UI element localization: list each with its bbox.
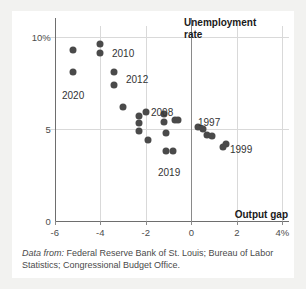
data-point xyxy=(142,109,149,116)
point-annotation: 2008 xyxy=(151,107,173,118)
data-point xyxy=(110,81,117,88)
point-annotation: 1999 xyxy=(230,144,252,155)
y-tick-label: 10% xyxy=(12,31,51,42)
data-point xyxy=(208,133,215,140)
x-gridline xyxy=(282,26,283,222)
x-axis-line xyxy=(55,221,289,222)
x-axis-title: Output gap xyxy=(235,209,288,221)
data-point xyxy=(136,120,143,127)
data-point xyxy=(161,118,168,125)
y-axis-line xyxy=(55,18,56,222)
data-point xyxy=(70,68,77,75)
data-point xyxy=(174,116,181,123)
point-annotation: 2012 xyxy=(126,74,148,85)
data-point xyxy=(97,50,104,57)
data-point xyxy=(220,144,227,151)
x-tick xyxy=(282,221,283,225)
x-gridline xyxy=(146,26,147,222)
x-gridline xyxy=(237,26,238,222)
data-point xyxy=(97,41,104,48)
y-axis-title-line1: Unemployment xyxy=(184,17,256,29)
chart-caption: Data from: Federal Reserve Bank of St. L… xyxy=(22,248,288,271)
x-tick xyxy=(100,221,101,225)
data-point xyxy=(120,103,127,110)
figure-container: -6-4-2024%0510%2010201220202008201919971… xyxy=(0,0,306,289)
data-point xyxy=(110,68,117,75)
x-tick-label: -4 xyxy=(96,227,104,238)
x-tick-label: -2 xyxy=(142,227,150,238)
x-tick xyxy=(55,221,56,225)
data-point xyxy=(136,127,143,134)
point-annotation: 2019 xyxy=(158,167,180,178)
point-annotation: 2020 xyxy=(62,90,84,101)
x-tick xyxy=(191,221,192,225)
point-annotation: 1997 xyxy=(198,117,220,128)
data-point xyxy=(70,46,77,53)
x-tick-label: 0 xyxy=(189,227,194,238)
x-tick xyxy=(146,221,147,225)
zero-output-gap-line xyxy=(191,18,192,222)
point-annotation: 2010 xyxy=(112,48,134,59)
data-point xyxy=(163,129,170,136)
y-tick-label: 0 xyxy=(12,216,51,227)
caption-lead: Data from: xyxy=(22,248,64,258)
x-tick xyxy=(237,221,238,225)
x-tick-label: -6 xyxy=(51,227,59,238)
x-tick-label: 4% xyxy=(276,227,290,238)
x-tick-label: 2 xyxy=(234,227,239,238)
y-axis-title-line2: rate xyxy=(184,29,256,41)
chart-card: -6-4-2024%0510%2010201220202008201919971… xyxy=(12,11,294,278)
data-point xyxy=(145,137,152,144)
y-tick-label: 5 xyxy=(12,124,51,135)
y-axis-title: Unemployment rate xyxy=(184,17,256,41)
data-point xyxy=(136,113,143,120)
data-point xyxy=(170,148,177,155)
